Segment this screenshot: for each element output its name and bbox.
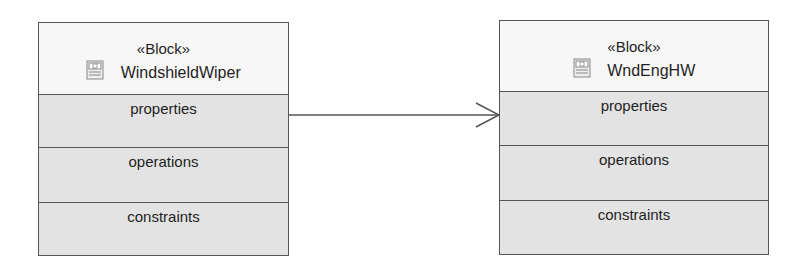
block-name: WindshieldWiper xyxy=(121,64,241,81)
block-wndenghw[interactable]: «Block» WndEngHW properties operations c… xyxy=(499,20,769,255)
block-windshieldwiper[interactable]: «Block» WindshieldWiper properties opera… xyxy=(38,22,289,256)
compartment-properties[interactable]: properties xyxy=(39,95,288,148)
compartment-constraints[interactable]: constraints xyxy=(39,203,288,255)
block-icon xyxy=(573,58,591,82)
compartment-operations[interactable]: operations xyxy=(39,148,288,203)
block-header: «Block» WindshieldWiper xyxy=(39,23,288,95)
block-name: WndEngHW xyxy=(607,62,695,79)
stereotype-label: «Block» xyxy=(500,38,768,55)
block-icon xyxy=(86,60,104,84)
block-header: «Block» WndEngHW xyxy=(500,21,768,92)
compartment-properties[interactable]: properties xyxy=(500,92,768,146)
compartment-operations[interactable]: operations xyxy=(500,146,768,201)
stereotype-label: «Block» xyxy=(39,40,288,57)
compartment-constraints[interactable]: constraints xyxy=(500,201,768,254)
